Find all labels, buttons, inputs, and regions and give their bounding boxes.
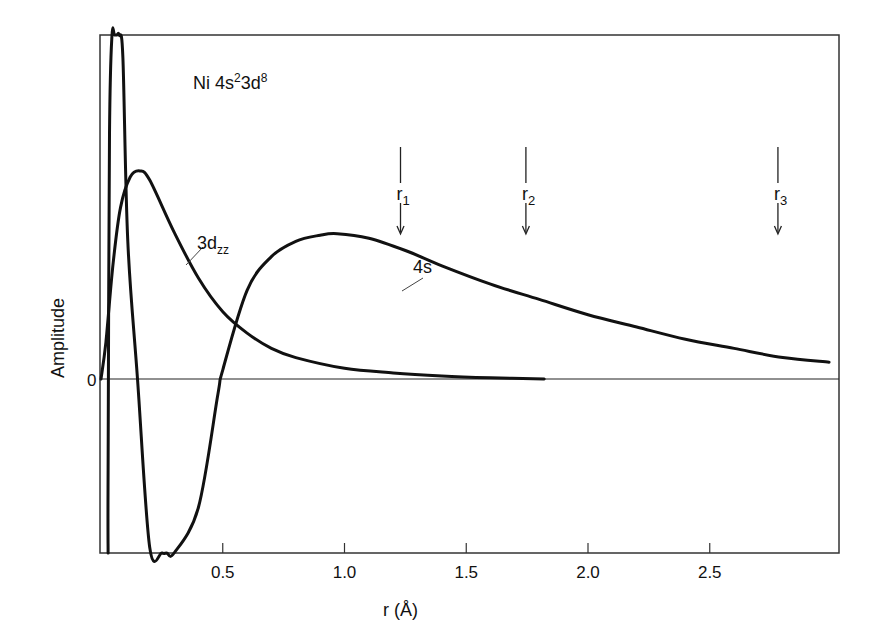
y-tick-label-zero: 0 (87, 371, 96, 390)
plot-frame (100, 35, 839, 553)
svg-text:r1: r1 (397, 184, 410, 208)
x-tick-label: 1.5 (454, 563, 478, 582)
y-axis-title: Amplitude (48, 298, 68, 378)
series-line-3dzz (101, 171, 544, 379)
chart-figure: 0.51.01.52.02.5 0 r (Å) Amplitude Ni 4s2… (0, 0, 885, 640)
annotation-r1: r1 (397, 147, 410, 234)
distance-annotations: r1r2r3 (397, 147, 788, 234)
x-axis-title: r (Å) (383, 600, 418, 620)
x-tick-label: 0.5 (211, 563, 235, 582)
series-label-4s: 4s (413, 257, 432, 277)
x-tick-label: 1.0 (333, 563, 357, 582)
chart-title: Ni 4s23d8 (193, 71, 268, 93)
svg-text:r2: r2 (522, 184, 535, 208)
series-line-4s (108, 28, 829, 562)
series-label-3dzz: 3dzz (197, 233, 229, 257)
label-leader-4s (402, 278, 423, 291)
x-tick-label: 2.0 (576, 563, 600, 582)
svg-text:r3: r3 (774, 184, 787, 208)
x-tick-label: 2.5 (698, 563, 722, 582)
annotation-r2: r2 (522, 147, 535, 234)
x-axis-ticks: 0.51.01.52.02.5 (211, 543, 722, 582)
chart-canvas: 0.51.01.52.02.5 0 r (Å) Amplitude Ni 4s2… (0, 0, 885, 640)
annotation-r3: r3 (774, 147, 787, 234)
